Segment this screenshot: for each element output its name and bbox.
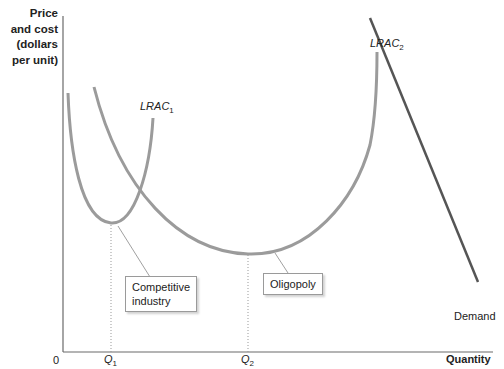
- callout-line: Competitive: [132, 280, 190, 294]
- chart-canvas: [0, 0, 504, 369]
- oligopoly-leader-line: [275, 253, 288, 273]
- q2-tick-label: Q2: [241, 353, 254, 365]
- lrac1-curve: [68, 93, 153, 223]
- lrac1-label: LRAC1: [140, 100, 174, 112]
- competitive-leader-line: [118, 226, 150, 277]
- origin-label: 0: [53, 354, 59, 366]
- demand-curve: [370, 18, 478, 282]
- lrac1-label-sub: 1: [169, 106, 173, 115]
- lrac1-label-base: LRAC: [140, 100, 169, 112]
- demand-label: Demand: [454, 310, 496, 322]
- q2-sub: 2: [250, 359, 254, 368]
- competitive-industry-callout: Competitive industry: [125, 276, 197, 312]
- lrac2-curve: [94, 52, 377, 254]
- oligopoly-callout: Oligopoly: [263, 273, 323, 295]
- q1-base: Q: [104, 353, 113, 365]
- lrac2-label-sub: 2: [399, 43, 403, 52]
- callout-line: industry: [132, 294, 190, 308]
- callout-line: Oligopoly: [270, 277, 316, 291]
- x-axis-label: Quantity: [446, 353, 491, 365]
- q2-base: Q: [241, 353, 250, 365]
- lrac2-label: LRAC2: [370, 37, 404, 49]
- lrac2-label-base: LRAC: [370, 37, 399, 49]
- q1-tick-label: Q1: [104, 353, 117, 365]
- q1-sub: 1: [113, 359, 117, 368]
